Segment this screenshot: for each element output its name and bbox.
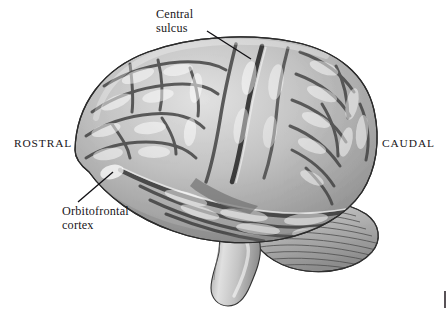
page-corner-mark xyxy=(444,291,446,308)
label-central-sulcus: Central sulcus xyxy=(156,8,193,35)
label-rostral: ROSTRAL xyxy=(14,137,72,150)
label-orbitofrontal-cortex: Orbitofrontal cortex xyxy=(62,205,129,232)
brain-anatomy-figure: Central sulcus Orbitofrontal cortex ROST… xyxy=(0,0,447,314)
brain-illustration xyxy=(0,0,447,314)
label-caudal: CAUDAL xyxy=(382,137,435,150)
